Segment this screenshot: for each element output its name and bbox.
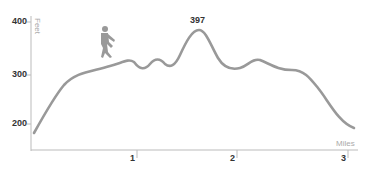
y-tick-label-300: 300 [3,69,27,79]
x-tick-label-1: 1 [130,153,135,163]
hiker-icon [101,26,115,58]
chart-canvas [0,0,370,172]
elevation-chart: 400 300 200 Feet 1 2 3 Miles 397 [0,0,370,172]
x-axis-title: Miles [336,139,355,148]
x-tick-label-2: 2 [230,153,235,163]
y-tick-label-400: 400 [3,16,27,26]
elevation-line [34,30,354,133]
x-tick-label-3: 3 [341,153,346,163]
y-axis-title: Feet [33,18,42,34]
y-tick-label-200: 200 [3,118,27,128]
peak-elevation-label: 397 [190,15,205,25]
